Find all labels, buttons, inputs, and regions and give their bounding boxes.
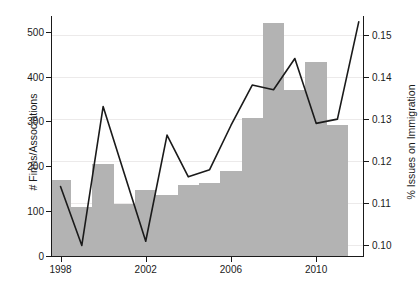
y-axis-right-line xyxy=(363,16,364,256)
y-tick-label-right: 0.15 xyxy=(372,29,391,40)
x-tick-label: 1998 xyxy=(49,264,71,275)
y-tick-left xyxy=(46,32,51,33)
y-axis-right-title: % Issues on Immigration xyxy=(405,47,417,237)
chart-container: 0100200300400500 0.100.110.120.130.140.1… xyxy=(0,0,419,292)
x-tick xyxy=(316,257,317,262)
y-tick-label-right: 0.14 xyxy=(372,72,391,83)
x-tick xyxy=(231,257,232,262)
y-tick-left xyxy=(46,211,51,212)
line-series xyxy=(52,16,363,256)
y-tick-right xyxy=(364,119,369,120)
y-tick-right xyxy=(364,35,369,36)
y-tick-left xyxy=(46,77,51,78)
y-tick-right xyxy=(364,245,369,246)
y-tick-right xyxy=(364,203,369,204)
y-axis-left-title: # Firms/Associations xyxy=(27,57,39,227)
y-axis-left-line xyxy=(51,16,52,256)
x-tick xyxy=(146,257,147,262)
y-tick-left xyxy=(46,121,51,122)
x-tick-label: 2002 xyxy=(135,264,157,275)
x-tick-label: 2010 xyxy=(305,264,327,275)
y-tick-right xyxy=(364,161,369,162)
y-tick-label-right: 0.11 xyxy=(372,198,391,209)
y-tick-right xyxy=(364,77,369,78)
plot-area xyxy=(52,16,363,256)
x-tick-label: 2006 xyxy=(220,264,242,275)
y-tick-label-left: 500 xyxy=(27,26,44,37)
y-tick-label-left: 0 xyxy=(38,251,44,262)
line-path xyxy=(61,22,359,246)
x-tick xyxy=(61,257,62,262)
y-tick-label-right: 0.12 xyxy=(372,156,391,167)
y-tick-left xyxy=(46,256,51,257)
y-tick-left xyxy=(46,166,51,167)
y-tick-label-right: 0.13 xyxy=(372,114,391,125)
y-tick-label-right: 0.10 xyxy=(372,240,391,251)
